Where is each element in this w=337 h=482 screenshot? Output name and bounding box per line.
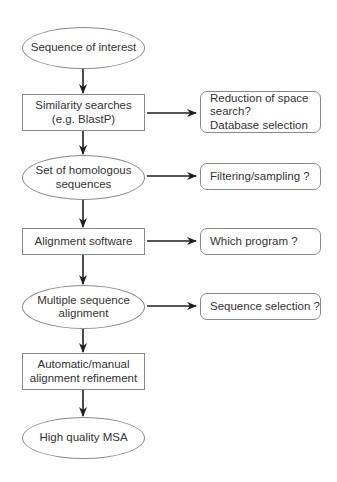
note-filtering-sampling: Filtering/sampling ? bbox=[200, 163, 321, 190]
step-label: High quality MSA bbox=[39, 431, 127, 445]
note-label: Filtering/sampling ? bbox=[210, 170, 310, 184]
step-label: Sequence of interest bbox=[31, 41, 137, 55]
step-high-quality-msa: High quality MSA bbox=[22, 417, 145, 459]
note-sequence-selection: Sequence selection ? bbox=[200, 293, 321, 320]
step-similarity-searches: Similarity searches (e.g. BlastP) bbox=[22, 94, 145, 131]
note-label: Which program ? bbox=[210, 235, 298, 249]
step-label: Multiple sequence alignment bbox=[37, 294, 130, 321]
note-which-program: Which program ? bbox=[200, 228, 321, 255]
step-homologous-sequences: Set of homologous sequences bbox=[22, 155, 145, 200]
step-label: Automatic/manual alignment refinement bbox=[30, 358, 137, 385]
note-label: Sequence selection ? bbox=[210, 300, 320, 314]
step-label: Alignment software bbox=[35, 235, 133, 249]
step-sequence-of-interest: Sequence of interest bbox=[22, 27, 145, 69]
step-alignment-software: Alignment software bbox=[22, 228, 145, 255]
step-alignment-refinement: Automatic/manual alignment refinement bbox=[22, 353, 145, 390]
step-multiple-sequence-alignment: Multiple sequence alignment bbox=[22, 285, 145, 329]
note-label: Reduction of space search? Database sele… bbox=[210, 92, 308, 133]
step-label: Set of homologous sequences bbox=[36, 164, 132, 191]
note-space-search-reduction: Reduction of space search? Database sele… bbox=[200, 91, 321, 133]
step-label: Similarity searches (e.g. BlastP) bbox=[35, 99, 132, 126]
